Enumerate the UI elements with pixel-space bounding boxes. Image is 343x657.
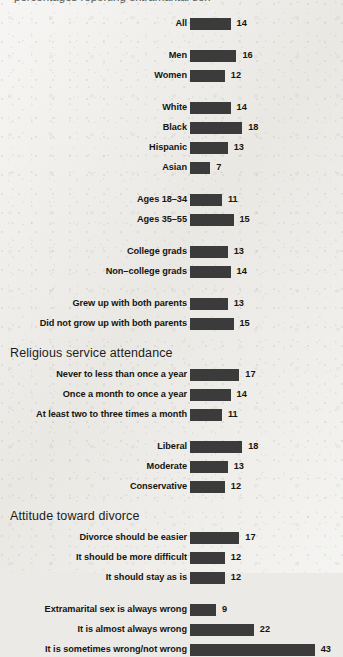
bar-value-label: 13 <box>234 141 244 154</box>
bar-value-label: 12 <box>231 69 241 82</box>
bar-row-label: Asian <box>162 161 187 174</box>
bar-row-label: Ages 18–34 <box>137 193 187 206</box>
bar-row-label: Extramarital sex is always wrong <box>45 603 187 616</box>
bar-row: It should be more difficult12 <box>0 551 343 565</box>
bar-value-label: 12 <box>231 571 241 584</box>
bar-value-label: 18 <box>248 440 258 453</box>
bar-value-label: 15 <box>240 317 250 330</box>
bar-row: Extramarital sex is always wrong9 <box>0 603 343 617</box>
bar-row-label: Non–college grads <box>106 265 187 278</box>
bar <box>190 18 231 30</box>
bar-row: Women12 <box>0 69 343 83</box>
bar-row-label: Liberal <box>157 440 187 453</box>
bar <box>190 266 231 278</box>
bar <box>190 246 228 258</box>
bar-value-label: 11 <box>228 193 238 206</box>
bar-value-label: 12 <box>231 480 241 493</box>
bar-row: It is sometimes wrong/not wrong43 <box>0 643 343 657</box>
bar-value-label: 12 <box>231 551 241 564</box>
bar-row-label: Never to less than once a year <box>56 368 187 381</box>
bar-row: College grads13 <box>0 245 343 259</box>
bar <box>190 369 239 381</box>
bar-row-label: Did not grow up with both parents <box>40 317 187 330</box>
bar <box>190 102 231 114</box>
bar-value-label: 17 <box>245 531 255 544</box>
bar-row-label: It should be more difficult <box>76 551 187 564</box>
bar <box>190 318 234 330</box>
bar-row: Conservative12 <box>0 480 343 494</box>
bar-row: Divorce should be easier17 <box>0 531 343 545</box>
bar-value-label: 18 <box>248 121 258 134</box>
bar-value-label: 15 <box>240 213 250 226</box>
bar <box>190 50 236 62</box>
bar-value-label: 7 <box>216 161 221 174</box>
bar-value-label: 13 <box>234 297 244 310</box>
bar-row-label: Men <box>169 49 187 62</box>
bar-row-label: It is almost always wrong <box>77 623 187 636</box>
bar-value-label: 43 <box>321 643 331 656</box>
bar-row-label: All <box>175 17 187 30</box>
bar-row-label: It should stay as is <box>106 571 187 584</box>
bar-value-label: 13 <box>234 460 244 473</box>
bar-value-label: 17 <box>245 368 255 381</box>
bar-value-label: 16 <box>242 49 252 62</box>
bar-row: Once a month to once a year14 <box>0 388 343 402</box>
bar-row-label: White <box>162 101 187 114</box>
bar <box>190 481 225 493</box>
bar-row-label: Divorce should be easier <box>79 531 187 544</box>
bar-row-label: Black <box>163 121 187 134</box>
bar-row-label: Grew up with both parents <box>72 297 187 310</box>
bar-row: Moderate13 <box>0 460 343 474</box>
bar-value-label: 9 <box>222 603 227 616</box>
bar-row: Black18 <box>0 121 343 135</box>
bar-value-label: 13 <box>234 245 244 258</box>
bar-row-label: College grads <box>127 245 187 258</box>
bar-row: It is almost always wrong22 <box>0 623 343 637</box>
bar-row: Did not grow up with both parents15 <box>0 317 343 331</box>
bar-row-label: Moderate <box>147 460 187 473</box>
bar-row: Hispanic13 <box>0 141 343 155</box>
bar-row: Men16 <box>0 49 343 63</box>
bar-row-label: Once a month to once a year <box>63 388 187 401</box>
bar-row: It should stay as is12 <box>0 571 343 585</box>
bar <box>190 162 210 174</box>
bar-value-label: 14 <box>237 265 247 278</box>
bar-row: All14 <box>0 17 343 31</box>
bar-row-label: It is sometimes wrong/not wrong <box>45 643 187 656</box>
bar-row-label: Hispanic <box>149 141 187 154</box>
bar <box>190 624 254 636</box>
chart-title-cropped: percentages reporting extramarital sex <box>14 0 314 3</box>
bar-row: Grew up with both parents13 <box>0 297 343 311</box>
bar <box>190 194 222 206</box>
bar <box>190 214 234 226</box>
bar-value-label: 14 <box>237 17 247 30</box>
bar-value-label: 14 <box>237 101 247 114</box>
bar-row: Never to less than once a year17 <box>0 368 343 382</box>
bar <box>190 604 216 616</box>
bar <box>190 389 231 401</box>
bar <box>190 552 225 564</box>
bar-value-label: 11 <box>228 408 238 421</box>
bar <box>190 70 225 82</box>
bar <box>190 441 242 453</box>
bar-value-label: 14 <box>237 388 247 401</box>
bar-row-label: Ages 35–55 <box>137 213 187 226</box>
section-header: Attitude toward divorce <box>10 509 139 523</box>
bar <box>190 298 228 310</box>
bar <box>190 532 239 544</box>
bar-row-label: Women <box>154 69 187 82</box>
bar-row: Ages 18–3411 <box>0 193 343 207</box>
bar <box>190 122 242 134</box>
bar-row: At least two to three times a month11 <box>0 408 343 422</box>
bar-row: Asian7 <box>0 161 343 175</box>
bar <box>190 409 222 421</box>
bar <box>190 572 225 584</box>
bar-row: Non–college grads14 <box>0 265 343 279</box>
bar-row: Ages 35–5515 <box>0 213 343 227</box>
bar <box>190 142 228 154</box>
bar-row-label: Conservative <box>130 480 187 493</box>
bar <box>190 644 315 656</box>
section-header: Religious service attendance <box>10 346 173 360</box>
bar-row: Liberal18 <box>0 440 343 454</box>
